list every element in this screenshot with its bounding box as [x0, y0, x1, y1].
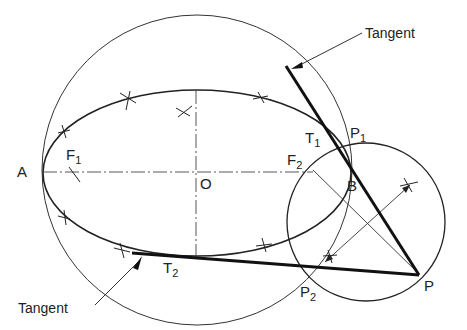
callout-tangent-bottom: Tangent [18, 300, 68, 316]
label-F1: F1 [66, 146, 81, 166]
construction-crosses [58, 91, 418, 263]
callout-leader-top [298, 33, 362, 66]
label-P2: P2 [300, 283, 316, 303]
label-T2: T2 [163, 259, 178, 279]
label-B: B [347, 177, 357, 194]
callout-arrowhead-bottom [133, 256, 142, 270]
callout-tangent-top: Tangent [365, 25, 415, 41]
ellipse-tangent-diagram: A O B P F1 F2 T1 P1 T2 P2 Tangent Tangen… [0, 0, 467, 330]
auxiliary-circle-large [42, 15, 352, 325]
callout-leader-bottom [95, 262, 138, 305]
label-O: O [200, 175, 212, 192]
label-P: P [424, 277, 434, 294]
label-A: A [17, 163, 27, 180]
label-P1: P1 [350, 124, 366, 144]
label-F2: F2 [287, 151, 302, 171]
callout-arrowhead-top [291, 62, 303, 69]
label-T1: T1 [305, 129, 320, 149]
